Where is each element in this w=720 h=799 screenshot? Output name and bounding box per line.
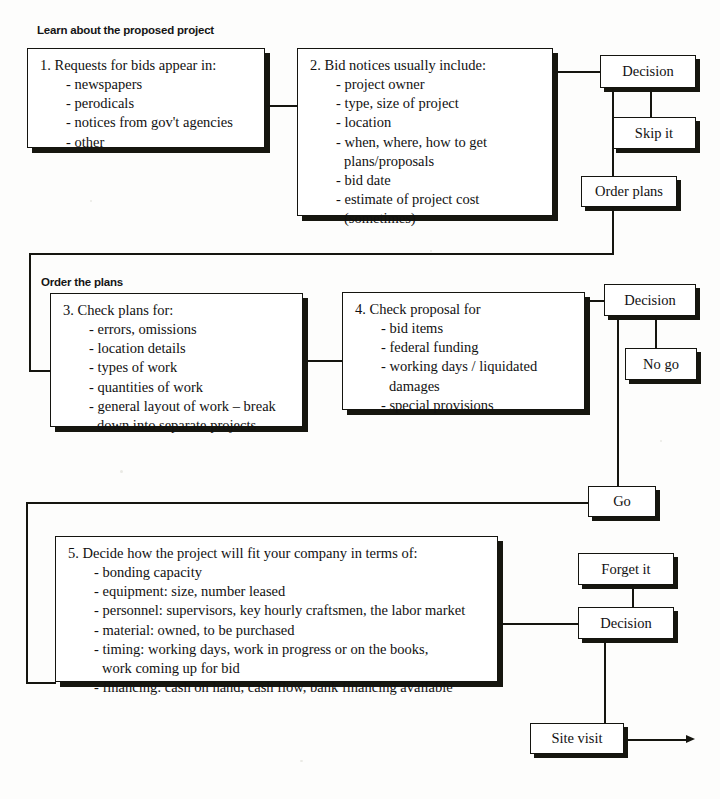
step-4-title-text: Check proposal for xyxy=(370,301,481,317)
step-box-5: 5. Decide how the project will fit your … xyxy=(55,536,498,682)
connector-sitevisit-out xyxy=(624,739,688,741)
step-5-number: 5. xyxy=(68,544,79,563)
node-no-go[interactable]: No go xyxy=(625,348,697,380)
list-item: - special provisions xyxy=(355,396,574,415)
step-box-3: 3. Check plans for: - errors, omissions … xyxy=(50,293,303,427)
list-item: work coming up for bid xyxy=(68,659,487,678)
list-item: - personnel: supervisors, key hourly cra… xyxy=(68,601,487,620)
list-item: - bid date xyxy=(310,171,542,190)
step-2-number: 2. xyxy=(310,56,321,75)
scan-speck xyxy=(430,250,432,252)
list-item: - location xyxy=(310,113,542,132)
connector-decision3-to-sitevisit xyxy=(604,639,606,724)
list-item: - federal funding xyxy=(355,338,574,357)
connector-decision1-to-orderplans xyxy=(612,88,614,177)
list-item: - equipment: size, number leased xyxy=(68,582,487,601)
scan-speck xyxy=(660,440,662,442)
arrow-head-icon xyxy=(686,735,695,743)
connector-orderplans-down xyxy=(612,207,614,254)
connector-decision2-to-go xyxy=(617,316,619,487)
step-5-title-text: Decide how the project will fit your com… xyxy=(83,545,418,561)
list-item: - notices from gov't agencies xyxy=(40,113,254,132)
node-decision-2[interactable]: Decision xyxy=(604,284,696,316)
step-3-title: 3. Check plans for: xyxy=(63,301,292,320)
section-heading-learn-about-project: Learn about the proposed project xyxy=(37,24,214,36)
node-label: No go xyxy=(643,356,679,373)
step-2-title: 2. Bid notices usually include: xyxy=(310,56,542,75)
step-1-number: 1. xyxy=(40,56,51,75)
node-site-visit[interactable]: Site visit xyxy=(530,723,624,754)
node-decision-1[interactable]: Decision xyxy=(600,55,696,88)
node-label: Decision xyxy=(622,63,674,80)
list-item: - errors, omissions xyxy=(63,320,292,339)
connector-decision1-to-skipit xyxy=(650,88,652,117)
connector-orderplans-across xyxy=(29,253,614,255)
step-5-title: 5. Decide how the project will fit your … xyxy=(68,544,487,563)
connector-step5-to-decision3 xyxy=(498,623,582,625)
list-item: - newspapers xyxy=(40,75,254,94)
step-4-title: 4. Check proposal for xyxy=(355,300,574,319)
node-order-plans[interactable]: Order plans xyxy=(581,176,677,207)
list-item: - type, size of project xyxy=(310,94,542,113)
flowchart-page: Learn about the proposed project 1. Requ… xyxy=(0,0,720,799)
list-item: - quantities of work xyxy=(63,378,292,397)
step-1-title: 1. Requests for bids appear in: xyxy=(40,56,254,75)
step-4-list: - bid items - federal funding - working … xyxy=(355,319,574,415)
list-item: - types of work xyxy=(63,358,292,377)
list-item: - perodicals xyxy=(40,94,254,113)
connector-orderplans-down-left xyxy=(29,253,31,371)
list-item: - estimate of project cost xyxy=(310,190,542,209)
node-label: Site visit xyxy=(551,730,602,747)
scan-speck xyxy=(90,200,92,202)
list-item: - working days / liquidated xyxy=(355,357,574,376)
connector-step2-to-decision1 xyxy=(553,71,601,73)
node-decision-3[interactable]: Decision xyxy=(578,607,674,639)
step-3-title-text: Check plans for: xyxy=(78,302,174,318)
scan-speck xyxy=(120,470,123,473)
step-1-list: - newspapers - perodicals - notices from… xyxy=(40,75,254,152)
connector-step3-to-step4 xyxy=(303,360,343,362)
list-item: - financing: cash on hand, cash flow, ba… xyxy=(68,678,487,697)
list-item: - bid items xyxy=(355,319,574,338)
node-label: Go xyxy=(613,493,631,510)
step-box-4: 4. Check proposal for - bid items - fede… xyxy=(342,292,585,410)
step-box-1: 1. Requests for bids appear in: - newspa… xyxy=(27,48,265,148)
list-item: plans/proposals xyxy=(310,152,542,171)
list-item: - location details xyxy=(63,339,292,358)
list-item: - bonding capacity xyxy=(68,563,487,582)
connector-go-down-left xyxy=(26,502,28,683)
connector-into-step5 xyxy=(26,682,56,684)
list-item: (sometimes) xyxy=(310,209,542,228)
node-label: Forget it xyxy=(601,561,650,578)
connector-into-step3 xyxy=(29,370,51,372)
connector-decision2-to-nogo xyxy=(655,316,657,349)
list-item: - material: owned, to be purchased xyxy=(68,621,487,640)
list-item: - when, where, how to get xyxy=(310,133,542,152)
connector-go-across xyxy=(26,502,589,504)
step-1-title-text: Requests for bids appear in: xyxy=(55,57,217,73)
node-label: Order plans xyxy=(595,183,663,200)
list-item: damages xyxy=(355,377,574,396)
step-4-number: 4. xyxy=(355,300,366,319)
scan-speck xyxy=(300,760,303,762)
step-5-list: - bonding capacity - equipment: size, nu… xyxy=(68,563,487,697)
step-2-list: - project owner - type, size of project … xyxy=(310,75,542,229)
step-2-title-text: Bid notices usually include: xyxy=(325,57,487,73)
node-label: Decision xyxy=(624,292,676,309)
step-3-number: 3. xyxy=(63,301,74,320)
step-box-2: 2. Bid notices usually include: - projec… xyxy=(297,48,553,216)
node-go[interactable]: Go xyxy=(588,486,656,517)
list-item: - timing: working days, work in progress… xyxy=(68,640,487,659)
section-heading-order-the-plans: Order the plans xyxy=(41,276,123,288)
node-forget-it[interactable]: Forget it xyxy=(578,553,674,585)
list-item: down into separate projects xyxy=(63,416,292,435)
list-item: - project owner xyxy=(310,75,542,94)
connector-forgetit-to-decision3 xyxy=(632,585,634,608)
node-skip-it[interactable]: Skip it xyxy=(612,117,696,149)
node-label: Decision xyxy=(600,615,652,632)
connector-step1-to-step2 xyxy=(265,105,298,107)
list-item: - other xyxy=(40,133,254,152)
step-3-list: - errors, omissions - location details -… xyxy=(63,320,292,435)
list-item: - general layout of work – break xyxy=(63,397,292,416)
node-label: Skip it xyxy=(635,125,673,142)
